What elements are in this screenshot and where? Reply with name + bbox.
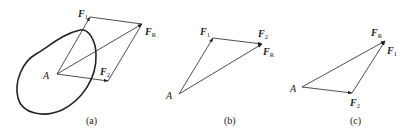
label-f2: F2: [99, 66, 110, 78]
label-f1: F1: [386, 45, 397, 57]
label-f1: F1: [199, 26, 210, 38]
label-fr: FR: [262, 46, 275, 58]
label-fr: FR: [144, 26, 157, 38]
caption-a: (a): [86, 115, 97, 127]
vector-fr: [302, 41, 385, 87]
label-f2: F2: [257, 28, 268, 40]
vector-f2: [302, 87, 352, 93]
force-diagram: F1 FR F2 A (a) F1 F2 FR A (b) FR F1 F2 A…: [0, 0, 409, 135]
label-point-a: A: [42, 70, 50, 81]
panel-a: F1 FR F2 A (a): [17, 8, 157, 127]
vector-f1: [179, 38, 213, 94]
caption-b: (b): [224, 115, 236, 127]
vector-f1: [57, 17, 90, 74]
vector-f1: [352, 41, 385, 93]
label-point-a: A: [165, 90, 173, 101]
parallelogram-side-top: [90, 17, 142, 24]
label-f1: F1: [77, 8, 88, 20]
label-f2: F2: [349, 97, 360, 109]
label-point-a: A: [289, 83, 297, 94]
rigid-body-outline: [17, 30, 96, 114]
label-fr: FR: [370, 27, 383, 39]
parallelogram-side-right: [108, 24, 142, 81]
panel-c: FR F1 F2 A (c): [289, 27, 397, 127]
vector-fr: [179, 44, 262, 94]
caption-c: (c): [350, 115, 361, 127]
panel-b: F1 F2 FR A (b): [165, 26, 275, 127]
vector-f2: [213, 38, 262, 44]
